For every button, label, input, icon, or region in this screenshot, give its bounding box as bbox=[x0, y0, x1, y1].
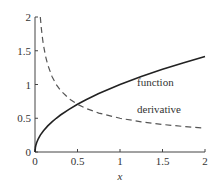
derivative-label: derivative bbox=[137, 103, 181, 115]
y-tick-label: 1.5 bbox=[17, 45, 31, 57]
x-tick-label: 1.5 bbox=[156, 155, 170, 167]
function-label: function bbox=[137, 76, 174, 88]
x-tick-label: 0 bbox=[32, 155, 38, 167]
x-tick-label: 1 bbox=[117, 155, 123, 167]
x-axis-label: x bbox=[117, 170, 123, 182]
chart: 00.511.52 00.511.52 function derivative … bbox=[0, 0, 222, 184]
x-tick-label: 2 bbox=[202, 155, 208, 167]
y-tick-label: 1 bbox=[26, 79, 32, 91]
y-tick-label: 0.5 bbox=[17, 112, 31, 124]
x-tick-label: 0.5 bbox=[71, 155, 85, 167]
plot-area: 00.511.52 00.511.52 function derivative … bbox=[17, 11, 208, 182]
y-tick-label: 0 bbox=[26, 146, 32, 158]
y-tick-label: 2 bbox=[26, 11, 32, 23]
